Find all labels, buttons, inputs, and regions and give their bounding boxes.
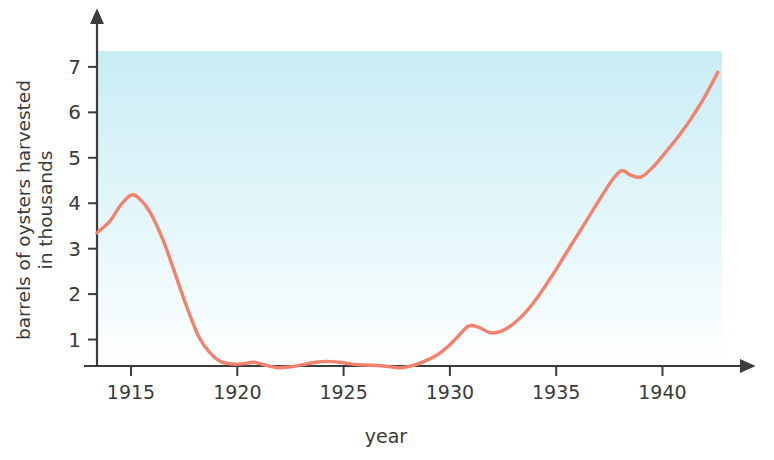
y-tick-label: 6 — [68, 100, 81, 124]
y-axis-title-line-2: in thousands — [35, 151, 56, 270]
x-axis-title: year — [365, 425, 408, 447]
y-tick-label: 7 — [68, 55, 81, 79]
x-tick-label: 1920 — [213, 381, 261, 403]
y-tick-label: 5 — [68, 146, 81, 170]
y-axis-title-line-1: barrels of oysters harvested — [13, 80, 34, 340]
x-tick-label: 1930 — [426, 381, 474, 403]
x-tick-label: 1925 — [319, 381, 367, 403]
chart-figure: 1234567 191519201925193019351940 year ba… — [0, 0, 774, 460]
x-tick-label: 1915 — [107, 381, 155, 403]
y-tick-label: 1 — [68, 328, 81, 352]
y-tick-label: 2 — [68, 282, 81, 306]
y-tick-label: 3 — [68, 237, 81, 261]
y-tick-label: 4 — [68, 191, 81, 215]
x-tick-label: 1935 — [532, 381, 580, 403]
oyster-harvest-line-chart: 1234567 191519201925193019351940 year ba… — [0, 0, 774, 460]
x-tick-label: 1940 — [638, 381, 686, 403]
